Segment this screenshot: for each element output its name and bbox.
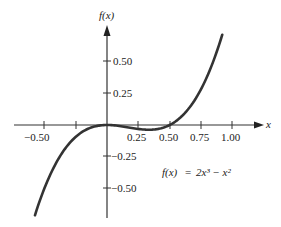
x-tick-label-025: 0.25 [127, 131, 147, 143]
x-tick-label-075: 0.75 [190, 131, 210, 143]
y-axis-arrow-icon [104, 25, 111, 36]
formula-lhs: f(x) [162, 166, 178, 179]
x-tick-label-100: 1.00 [221, 131, 241, 143]
function-annotation: f(x) = 2x³ − x² [162, 166, 231, 179]
x-tick-label-050: 0.50 [159, 131, 179, 143]
y-axis-label: f(x) [99, 9, 115, 22]
formula-rhs: 2x³ − x² [196, 166, 231, 178]
function-plot: f(x) x −0.50 0.25 0.50 0.75 1.00 0.50 0.… [0, 0, 281, 227]
y-tick-label-neg050: −0.50 [111, 182, 137, 194]
formula-equals: = [185, 166, 191, 178]
y-tick-label-050: 0.50 [113, 55, 133, 67]
x-axis-label: x [265, 118, 271, 130]
y-tick-label-025: 0.25 [113, 87, 133, 99]
y-tick-label-neg025: −0.25 [111, 150, 137, 162]
x-tick-label-neg050: −0.50 [24, 131, 50, 143]
x-axis-arrow-icon [254, 122, 264, 129]
